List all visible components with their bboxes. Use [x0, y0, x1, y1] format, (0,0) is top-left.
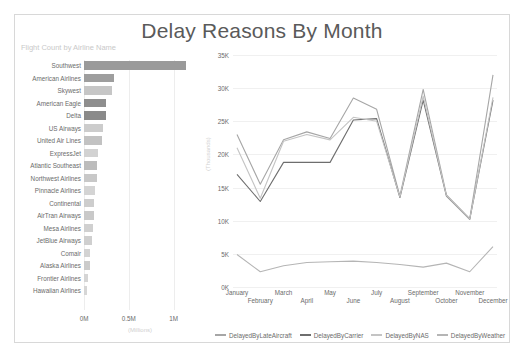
bar-row[interactable]: Northwest Airlines [84, 173, 196, 186]
legend-label: DelayedByLateAircraft [229, 332, 292, 339]
bar-rect[interactable] [84, 111, 106, 120]
bar-rect[interactable] [84, 274, 88, 283]
x-axis-tick: April [301, 297, 314, 304]
line-series-group [233, 55, 497, 287]
bar-rect[interactable] [84, 149, 98, 158]
bar-row[interactable]: Delta [84, 110, 196, 123]
bar-row[interactable]: US Airways [84, 123, 196, 136]
x-axis-tick: May [324, 289, 336, 296]
bar-category-label: Frontier Airlines [37, 274, 81, 283]
bar-category-label: ExpressJet [50, 149, 81, 158]
bar-row[interactable]: Alaska Airlines [84, 260, 196, 273]
bar-row[interactable]: Frontier Airlines [84, 273, 196, 286]
bar-category-label: American Airlines [32, 74, 81, 83]
bar-category-label: Mesa Airlines [44, 224, 81, 233]
bar-rect[interactable] [84, 136, 102, 145]
y-axis-tick: 35K [218, 52, 229, 59]
bar-category-label: Delta [66, 111, 81, 120]
bar-row[interactable]: AirTran Airways [84, 210, 196, 223]
bar-row[interactable]: Hawaiian Airlines [84, 285, 196, 298]
legend-swatch-icon [371, 334, 382, 336]
bar-rect[interactable] [84, 261, 90, 270]
legend-label: DelayedByWeather [451, 332, 505, 339]
bar-category-label: Comair [61, 249, 81, 258]
bar-rect[interactable] [84, 211, 94, 220]
legend-item[interactable]: DelayedByWeather [437, 332, 505, 339]
legend-label: DelayedByNAS [385, 332, 428, 339]
x-axis-tick: August [390, 297, 410, 304]
x-axis-tick: June [347, 297, 361, 304]
x-axis-tick: December [478, 297, 507, 304]
bar-category-label: Northwest Airlines [31, 174, 81, 183]
legend-label: DelayedByCarrier [314, 332, 364, 339]
x-axis-tick: September [408, 289, 439, 296]
y-axis-tick: 30K [218, 85, 229, 92]
line-chart-y-axis-title: (Thousands) [205, 137, 211, 171]
bar-category-label: United Air Lines [37, 136, 81, 145]
y-axis-tick: 5K [221, 250, 229, 257]
line-gridline [233, 287, 497, 288]
bar-rect[interactable] [84, 286, 87, 295]
bar-chart-axis-title: (Millions) [84, 327, 196, 333]
bar-rect[interactable] [84, 61, 186, 70]
bar-rect[interactable] [84, 74, 114, 83]
bar-category-label: Southwest [52, 61, 81, 70]
bar-row[interactable]: American Airlines [84, 73, 196, 86]
bar-row[interactable]: Continental [84, 198, 196, 211]
legend-swatch-icon [437, 334, 448, 336]
bar-row[interactable]: Southwest [84, 60, 196, 73]
bar-row[interactable]: Atlantic Southeast [84, 160, 196, 173]
bar-axis-tick: 0M [80, 315, 89, 322]
bar-row[interactable]: Pinnacle Airlines [84, 185, 196, 198]
bar-category-label: American Eagle [37, 99, 81, 108]
bar-row[interactable]: Comair [84, 248, 196, 261]
bar-axis-tick: 0.5M [122, 315, 136, 322]
bar-row[interactable]: ExpressJet [84, 148, 196, 161]
bar-chart-x-axis: 0M0.5M1M [84, 315, 196, 327]
bar-row[interactable]: Mesa Airlines [84, 223, 196, 236]
line-chart-plot-area: 0K5K10K15K20K25K30K35KJanuaryFebruaryMar… [233, 55, 497, 287]
bar-category-label: Alaska Airlines [40, 261, 81, 270]
legend-item[interactable]: DelayedByLateAircraft [215, 332, 292, 339]
bar-rect[interactable] [84, 124, 103, 133]
report-canvas: Delay Reasons By Month Flight Count by A… [14, 14, 510, 343]
bar-axis-tick: 1M [169, 315, 178, 322]
bar-chart-title: Flight Count by Airline Name [21, 43, 116, 52]
legend-item[interactable]: DelayedByCarrier [300, 332, 364, 339]
bar-category-label: AirTran Airways [37, 211, 81, 220]
x-axis-tick: July [371, 289, 382, 296]
bar-row[interactable]: United Air Lines [84, 135, 196, 148]
line-series-DelayedByWeather[interactable] [237, 247, 493, 272]
legend-swatch-icon [300, 334, 311, 336]
y-axis-tick: 15K [218, 184, 229, 191]
line-chart-legend[interactable]: DelayedByLateAircraftDelayedByCarrierDel… [215, 328, 505, 342]
line-series-DelayedByNAS[interactable] [237, 96, 493, 219]
y-axis-tick: 20K [218, 151, 229, 158]
bar-category-label: Hawaiian Airlines [33, 286, 81, 295]
bar-category-label: JetBlue Airways [37, 236, 81, 245]
bar-chart-plot-area: SouthwestAmerican AirlinesSkywestAmerica… [84, 60, 196, 310]
bar-rect[interactable] [84, 249, 90, 258]
bar-category-label: US Airways [49, 124, 81, 133]
bar-rect[interactable] [84, 199, 94, 208]
bar-category-label: Skywest [58, 86, 81, 95]
bar-row[interactable]: American Eagle [84, 98, 196, 111]
x-axis-tick: March [275, 289, 293, 296]
x-axis-tick: January [226, 289, 248, 296]
bar-rect[interactable] [84, 236, 92, 245]
legend-swatch-icon [215, 334, 226, 336]
bar-rect[interactable] [84, 174, 97, 183]
bar-row[interactable]: JetBlue Airways [84, 235, 196, 248]
bar-rect[interactable] [84, 161, 97, 170]
bar-row[interactable]: Skywest [84, 85, 196, 98]
y-axis-tick: 10K [218, 217, 229, 224]
bar-rect[interactable] [84, 86, 112, 95]
line-series-DelayedByLateAircraft[interactable] [237, 75, 493, 219]
bar-rect[interactable] [84, 224, 93, 233]
bar-rect[interactable] [84, 186, 95, 195]
bar-rect[interactable] [84, 99, 106, 108]
legend-item[interactable]: DelayedByNAS [371, 332, 428, 339]
bar-chart-visual[interactable]: Flight Count by Airline Name SouthwestAm… [16, 43, 201, 343]
x-axis-tick: November [455, 289, 484, 296]
line-chart-visual[interactable]: (Thousands) 0K5K10K15K20K25K30K35KJanuar… [201, 43, 510, 343]
